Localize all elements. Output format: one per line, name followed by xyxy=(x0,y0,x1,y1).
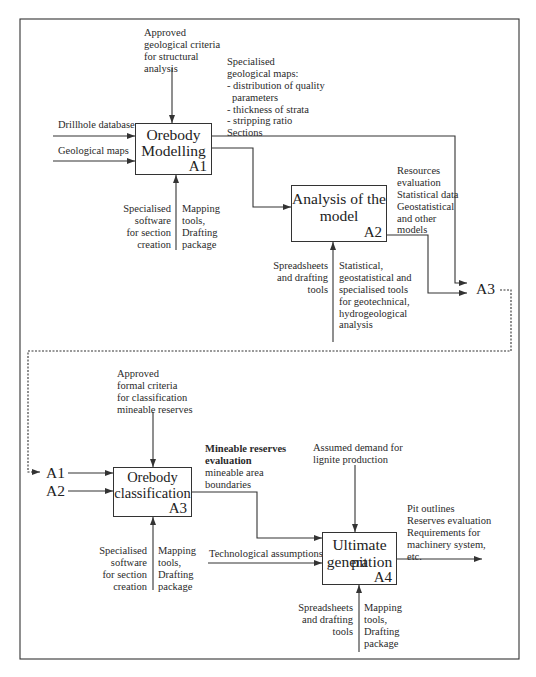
a3-output-label: Mineable reserves evaluation mineable ar… xyxy=(205,443,286,491)
a2-output-label: Resources evaluation Statistical data Ge… xyxy=(397,165,459,236)
a2-title-line: model xyxy=(292,207,386,224)
a1-mechanism-right-label: Mapping tools, Drafting package xyxy=(182,203,220,251)
a3-input-ref-a1: A1 xyxy=(46,465,65,481)
a3-input-ref-a2: A2 xyxy=(46,483,65,499)
a1-input-label-geomaps: Geological maps xyxy=(58,145,129,157)
a4-node-id: A4 xyxy=(374,569,392,585)
a1-output-to-a2 xyxy=(212,148,291,207)
a2-mechanism-right-label: Statistical, geostatistical and speciali… xyxy=(339,260,412,331)
a3-mechanism-left-label: Specialised software for section creatio… xyxy=(90,545,147,593)
a3-title-line: Orebody xyxy=(114,469,191,486)
a2-title-line: Analysis of the xyxy=(292,190,386,207)
activity-box-a2: Analysis of the model A2 xyxy=(291,185,387,242)
a4-input-label-tech: Technological assumptions xyxy=(209,548,323,560)
a3-node-id: A3 xyxy=(169,500,187,516)
activity-box-a4: Ultimate pit generation A4 xyxy=(322,532,397,585)
activity-box-a3: Orebody classification A3 xyxy=(113,467,192,517)
a3-mechanism-right-label: Mapping tools, Drafting package xyxy=(158,545,196,593)
a1-output-label: Specialised geological maps: - distribut… xyxy=(227,56,325,139)
a3-control-label: Approved formal criteria for classificat… xyxy=(117,368,193,416)
a4-title-line: generation xyxy=(323,553,396,570)
a3-output-to-a4 xyxy=(192,492,322,538)
a4-mechanism-right-label: Mapping tools, Drafting package xyxy=(364,602,402,650)
a1-input-label-drillhole: Drillhole database xyxy=(58,119,135,131)
a4-mechanism-left-label: Spreadsheets and drafting tools xyxy=(290,602,353,638)
a4-output-label: Pit outlines Reserves evaluation Require… xyxy=(407,503,491,562)
a4-control-label: Assumed demand for lignite production xyxy=(313,442,403,466)
a1-mechanism-left-label: Specialised software for section creatio… xyxy=(110,203,171,251)
a1-node-id: A1 xyxy=(189,158,207,174)
a1-control-label: Approved geological criteria for structu… xyxy=(144,27,220,75)
a1-title-line: Modelling xyxy=(136,142,211,159)
a2-mechanism-left-label: Spreadsheets and drafting tools xyxy=(260,260,328,296)
a2-node-id: A2 xyxy=(364,224,382,240)
activity-box-a1: Orebody Modelling A1 xyxy=(135,123,212,175)
a1-title-line: Orebody xyxy=(136,126,211,143)
a3-reference-label: A3 xyxy=(476,281,495,297)
